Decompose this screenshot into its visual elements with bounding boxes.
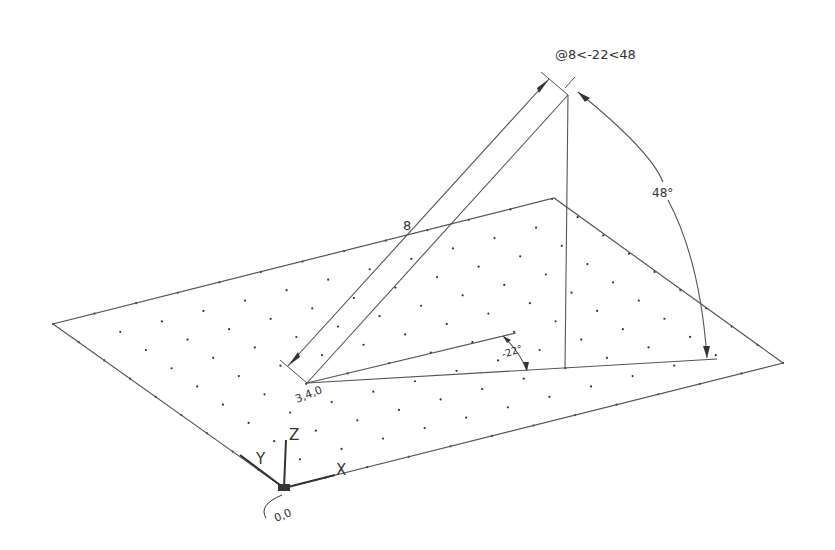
grid-dot	[529, 302, 531, 304]
grid-dot	[420, 305, 422, 307]
grid-dot	[539, 349, 541, 351]
grid-dot	[196, 385, 198, 387]
projected-line	[307, 359, 717, 383]
grid-dot	[244, 299, 246, 301]
grid-dot	[452, 247, 454, 249]
grid-dot	[606, 357, 608, 359]
grid-dot	[340, 448, 342, 450]
z-axis-label: Z	[289, 426, 299, 444]
grid-dot	[170, 367, 172, 369]
grid-dot	[493, 237, 495, 239]
grid-dot	[356, 419, 358, 421]
length-dimension-line	[288, 79, 549, 366]
grid-dot	[145, 349, 147, 351]
arrow-head-icon	[288, 352, 300, 366]
grid-dot	[161, 320, 163, 322]
grid-dot	[119, 331, 121, 333]
elevation-angle-label: 48°	[652, 186, 673, 200]
grid-dot	[715, 354, 717, 356]
length-label: 8	[403, 218, 411, 233]
grid-dot	[446, 323, 448, 325]
grid-dot	[279, 365, 281, 367]
grid-dot	[561, 245, 563, 247]
arrow-head-icon	[503, 336, 511, 343]
grid-dot	[263, 393, 265, 395]
3d-line	[307, 95, 568, 383]
grid-dot	[273, 440, 275, 442]
grid-dot	[436, 276, 438, 278]
grid-dot	[321, 354, 323, 356]
grid-dot	[289, 411, 291, 413]
grid-dot	[631, 375, 633, 377]
grid-dot	[228, 328, 230, 330]
grid-dot	[186, 339, 188, 341]
grid-dot	[212, 357, 214, 359]
grid-dot	[507, 406, 509, 408]
polar-command-label: @8<-22<48	[555, 47, 636, 62]
grid-dot	[465, 417, 467, 419]
grid-dot	[519, 255, 521, 257]
grid-dot	[462, 294, 464, 296]
grid-dot	[404, 333, 406, 335]
grid-dot	[612, 281, 614, 283]
arrow-head-icon	[703, 346, 710, 358]
grid-dot	[535, 227, 537, 229]
grid-dot	[299, 458, 301, 460]
grid-dot	[222, 404, 224, 406]
grid-dot	[270, 318, 272, 320]
grid-dot	[663, 318, 665, 320]
grid-dot	[503, 284, 505, 286]
grid-dot	[311, 307, 313, 309]
grid-dot	[481, 388, 483, 390]
grid-dot	[497, 359, 499, 361]
grid-dot	[410, 258, 412, 260]
dimension-extension-start	[280, 360, 307, 383]
grid-dot	[254, 346, 256, 348]
start-point-label: 3,4,0	[293, 383, 324, 406]
grid-dot	[596, 310, 598, 312]
grid-dot	[315, 430, 317, 432]
grid-dot	[545, 273, 547, 275]
grid-dot	[353, 297, 355, 299]
grid-dot	[523, 378, 525, 380]
x-reference-line	[307, 333, 516, 383]
grid-dot	[554, 320, 556, 322]
grid-dot	[398, 409, 400, 411]
grid-dot	[439, 398, 441, 400]
grid-dot	[673, 365, 675, 367]
grid-dot	[247, 422, 249, 424]
grid-dot	[372, 391, 374, 393]
x-axis-label: X	[336, 461, 346, 479]
grid-dot	[622, 328, 624, 330]
grid-dot	[369, 268, 371, 270]
grid-dot	[577, 216, 579, 218]
cad-drawing: 8 48° -22° @8<-22<48 3,4,0 Z Y X 0,0	[0, 0, 835, 550]
grid-dot	[424, 427, 426, 429]
xy-plane-outline	[53, 198, 783, 488]
arrow-head-icon	[537, 79, 549, 93]
grid-dot	[455, 370, 457, 372]
grid-dot	[638, 299, 640, 301]
vertical-line	[565, 95, 568, 369]
grid-dot	[362, 344, 364, 346]
grid-dot	[382, 437, 384, 439]
grid-dot	[590, 385, 592, 387]
grid-dot	[477, 266, 479, 268]
grid-dot	[513, 331, 515, 333]
grid-dot	[238, 375, 240, 377]
grid-dot	[580, 338, 582, 340]
grid-dot	[570, 292, 572, 294]
grid-dot	[689, 336, 691, 338]
elevation-angle-arc	[578, 92, 707, 358]
grid-dot	[295, 336, 297, 338]
grid-dot	[378, 315, 380, 317]
grid-dot	[285, 289, 287, 291]
grid-dot	[647, 346, 649, 348]
grid-dots	[52, 198, 784, 489]
grid-dot	[327, 279, 329, 281]
grid-dot	[586, 263, 588, 265]
grid-dot	[331, 401, 333, 403]
grid-dot	[414, 380, 416, 382]
extension-tick	[565, 77, 575, 88]
y-axis-label: Y	[255, 450, 266, 468]
